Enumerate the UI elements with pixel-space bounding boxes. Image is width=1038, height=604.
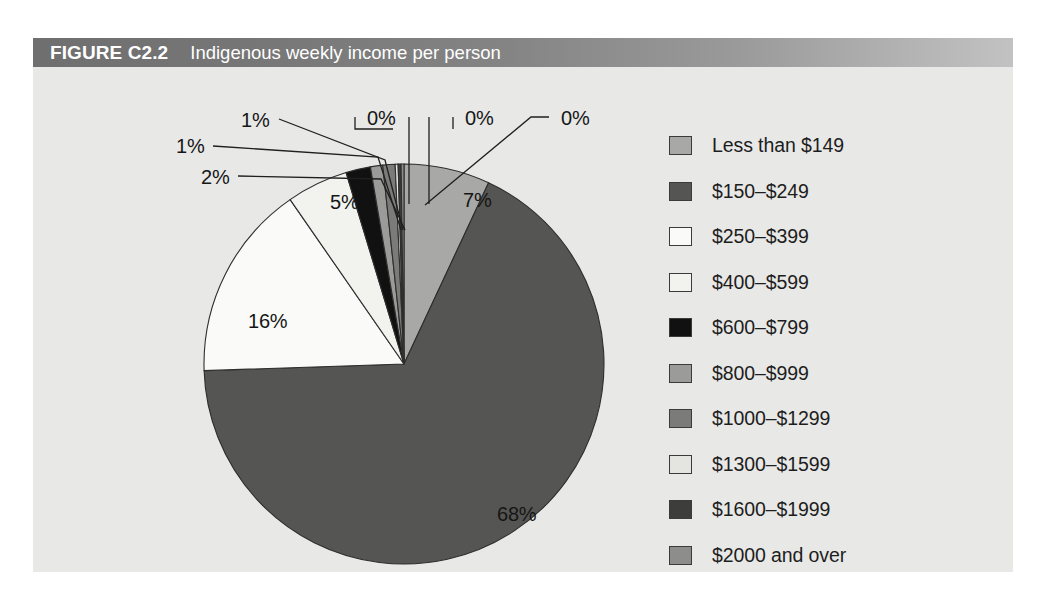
pie-slice-group	[204, 164, 604, 564]
legend-item[interactable]: $150–$249	[669, 169, 969, 215]
figure-number: FIGURE C2.2	[50, 42, 168, 64]
legend-item[interactable]: $400–$599	[669, 260, 969, 306]
pie-label-400-599: 5%	[330, 191, 359, 214]
legend-item[interactable]: $1600–$1999	[669, 487, 969, 533]
legend-swatch-icon	[669, 500, 692, 519]
figure-title-bar: FIGURE C2.2 Indigenous weekly income per…	[33, 38, 1013, 67]
legend-item[interactable]: $800–$999	[669, 351, 969, 397]
pie-label-less-149: 7%	[463, 189, 492, 212]
chart-legend: Less than $149$150–$249$250–$399$400–$59…	[669, 123, 969, 578]
legend-item-label: $1000–$1299	[712, 407, 830, 430]
legend-item-label: $600–$799	[712, 316, 809, 339]
pie-label-250-399: 16%	[248, 310, 287, 333]
legend-item[interactable]: $600–$799	[669, 305, 969, 351]
legend-item-label: $250–$399	[712, 225, 809, 248]
plot-body: 1% 1% 2% 0% 0% 0% 5% 16% 7% 68% Less tha…	[33, 67, 1013, 572]
pie-label-extra-zero: 0%	[561, 107, 590, 130]
legend-swatch-icon	[669, 227, 692, 246]
pie-label-1000-1299: 0%	[367, 107, 396, 130]
legend-swatch-icon	[669, 364, 692, 383]
legend-item-label: $1300–$1599	[712, 453, 830, 476]
legend-item-label: Less than $149	[712, 134, 844, 157]
pie-label-1300-1599: 1%	[241, 109, 270, 132]
legend-item-label: $2000 and over	[712, 544, 846, 567]
legend-swatch-icon	[669, 318, 692, 337]
legend-item[interactable]: $250–$399	[669, 214, 969, 260]
legend-swatch-icon	[669, 273, 692, 292]
legend-item[interactable]: $1300–$1599	[669, 442, 969, 488]
legend-item[interactable]: $2000 and over	[669, 533, 969, 579]
legend-item[interactable]: $1000–$1299	[669, 396, 969, 442]
legend-item-label: $150–$249	[712, 180, 809, 203]
figure-panel: FIGURE C2.2 Indigenous weekly income per…	[33, 38, 1013, 572]
legend-swatch-icon	[669, 546, 692, 565]
legend-swatch-icon	[669, 182, 692, 201]
legend-item[interactable]: Less than $149	[669, 123, 969, 169]
legend-item-label: $400–$599	[712, 271, 809, 294]
pie-label-2000-over: 0%	[465, 107, 494, 130]
legend-swatch-icon	[669, 455, 692, 474]
legend-swatch-icon	[669, 136, 692, 155]
legend-item-label: $800–$999	[712, 362, 809, 385]
pie-label-150-249: 68%	[497, 503, 536, 526]
pie-chart-svg	[33, 67, 673, 572]
pie-label-1600-1999: 1%	[176, 135, 205, 158]
pie-chart: 1% 1% 2% 0% 0% 0% 5% 16% 7% 68%	[33, 67, 673, 572]
legend-item-label: $1600–$1999	[712, 498, 830, 521]
pie-label-800-999: 2%	[201, 166, 230, 189]
legend-swatch-icon	[669, 409, 692, 428]
figure-caption: Indigenous weekly income per person	[190, 42, 501, 64]
